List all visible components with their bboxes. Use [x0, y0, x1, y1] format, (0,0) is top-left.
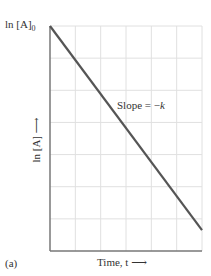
y-axis-arrow-icon: ⟶	[30, 117, 42, 133]
grid-lines	[50, 26, 202, 251]
y-intercept-label: ln [A]0	[5, 18, 36, 33]
x-axis-label: Time, t ⟶	[97, 256, 147, 269]
slope-annotation: Slope = −k	[117, 99, 165, 111]
y-axis-label: ln [A] ⟶	[30, 117, 43, 162]
panel-label: (a)	[5, 257, 17, 269]
x-axis-arrow-icon: ⟶	[131, 256, 147, 268]
